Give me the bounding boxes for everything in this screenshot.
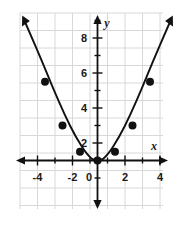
data-point	[41, 78, 49, 86]
coordinate-graph: -4 -2 0 2 4 2 4 6 8 x y	[0, 0, 181, 226]
data-point	[129, 122, 137, 130]
data-point	[111, 148, 119, 156]
origin-label: 0	[86, 171, 92, 183]
y-tick-label: 6	[81, 67, 87, 79]
x-tick-label: -2	[68, 171, 78, 183]
y-tick-label: 2	[81, 137, 87, 149]
x-tick-label: 4	[157, 171, 164, 183]
x-tick-label: -4	[33, 171, 44, 183]
data-point	[59, 122, 67, 130]
graph-canvas: -4 -2 0 2 4 2 4 6 8 x y	[0, 0, 181, 226]
data-point	[146, 78, 154, 86]
y-tick-label: 4	[81, 102, 88, 114]
x-tick-label: 2	[122, 171, 128, 183]
x-axis-label: x	[150, 139, 157, 153]
y-axis-label: y	[102, 16, 110, 30]
data-point	[94, 157, 102, 165]
data-point	[76, 148, 84, 156]
y-tick-label: 8	[81, 32, 87, 44]
